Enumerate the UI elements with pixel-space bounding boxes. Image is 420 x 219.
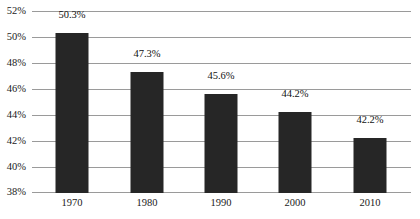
y-axis-tick-label: 50% [0, 32, 26, 43]
bar-group: 50.3% [37, 11, 107, 193]
y-axis-tick-label: 48% [0, 58, 26, 69]
y-axis-tick-label: 40% [0, 162, 26, 173]
bar-value-label: 44.2% [281, 89, 308, 100]
y-axis-tick-label: 52% [0, 6, 26, 17]
x-axis-tick-label: 1970 [62, 198, 83, 209]
bar[interactable] [131, 72, 164, 193]
bar-value-label: 42.2% [356, 115, 383, 126]
y-axis-tick-label: 46% [0, 84, 26, 95]
bar-value-label: 50.3% [58, 10, 85, 21]
bar-group: 45.6% [186, 11, 256, 193]
x-axis-tick-label: 1980 [137, 198, 158, 209]
bar-value-label: 45.6% [207, 71, 234, 82]
y-axis-tick-label: 42% [0, 136, 26, 147]
bar[interactable] [279, 112, 312, 193]
bar-group: 47.3% [112, 11, 182, 193]
x-axis-tick-label: 2010 [360, 198, 381, 209]
bar[interactable] [56, 33, 89, 193]
x-axis-tick-label: 1990 [211, 198, 232, 209]
x-axis-tick-label: 2000 [285, 198, 306, 209]
bar[interactable] [205, 94, 238, 193]
bar[interactable] [354, 138, 387, 193]
bar-chart: 52% 50% 48% 46% 44% 42% 40% 38% 50.3% 47… [0, 0, 420, 219]
bar-series: 50.3% 47.3% 45.6% 44.2% 42.2% [32, 11, 411, 193]
bar-group: 44.2% [260, 11, 330, 193]
bar-value-label: 47.3% [133, 49, 160, 60]
bar-group: 42.2% [335, 11, 405, 193]
y-axis-tick-label: 44% [0, 110, 26, 121]
y-axis-tick-label: 38% [0, 187, 26, 198]
